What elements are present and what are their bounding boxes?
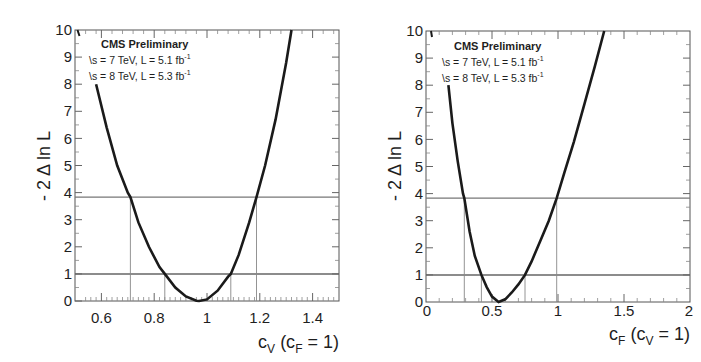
legend: CMS Preliminary \s = 7 TeV, L = 5.1 fb-1… bbox=[442, 40, 544, 84]
svg-text:\s = 8 TeV, L = 5.3 fb-1: \s = 8 TeV, L = 5.3 fb-1 bbox=[89, 69, 191, 82]
svg-text:1: 1 bbox=[203, 309, 211, 326]
svg-text:10: 10 bbox=[406, 22, 423, 39]
y-ticks bbox=[426, 58, 690, 275]
svg-text:10: 10 bbox=[55, 21, 72, 38]
svg-text:7: 7 bbox=[64, 102, 72, 119]
crossing-droplines bbox=[464, 198, 556, 302]
y-tick-labels: 0 1 2 3 4 5 6 7 8 9 10 bbox=[55, 21, 72, 309]
svg-text:7: 7 bbox=[415, 103, 423, 120]
svg-text:6: 6 bbox=[415, 131, 423, 148]
svg-text:1.5: 1.5 bbox=[614, 302, 635, 319]
svg-text:4: 4 bbox=[64, 184, 72, 201]
svg-text:0: 0 bbox=[415, 293, 423, 310]
chart-svg-cf: - 2 Δ ln L bbox=[351, 0, 701, 362]
svg-text:0: 0 bbox=[64, 292, 72, 309]
x-tick-labels: 0 0.5 1 1.5 2 bbox=[423, 302, 693, 319]
chart-svg-cv: - 2 Δ ln L bbox=[0, 0, 350, 362]
svg-text:0.8: 0.8 bbox=[144, 309, 165, 326]
y-axis-title: - 2 Δ ln L bbox=[34, 131, 54, 201]
svg-text:1: 1 bbox=[554, 302, 562, 319]
y-axis-title: - 2 Δ ln L bbox=[385, 131, 405, 201]
legend: CMS Preliminary \s = 7 TeV, L = 5.1 fb-1… bbox=[89, 38, 191, 82]
svg-text:3: 3 bbox=[64, 211, 72, 228]
svg-text:1: 1 bbox=[64, 265, 72, 282]
svg-text:6: 6 bbox=[64, 130, 72, 147]
svg-text:\s = 8 TeV, L = 5.3 fb-1: \s = 8 TeV, L = 5.3 fb-1 bbox=[442, 71, 544, 84]
x-axis-title: cV (cF = 1) bbox=[258, 332, 339, 356]
y-tick-labels: 0 1 2 3 4 5 6 7 8 9 10 bbox=[406, 22, 423, 310]
svg-text:5: 5 bbox=[64, 157, 72, 174]
svg-text:1: 1 bbox=[415, 266, 423, 283]
svg-text:5: 5 bbox=[415, 158, 423, 175]
curve-stub bbox=[78, 30, 80, 36]
svg-text:CMS Preliminary: CMS Preliminary bbox=[454, 40, 542, 52]
svg-text:2: 2 bbox=[415, 239, 423, 256]
svg-text:8: 8 bbox=[415, 76, 423, 93]
svg-text:3: 3 bbox=[415, 212, 423, 229]
svg-text:\s = 7 TeV, L = 5.1 fb-1: \s = 7 TeV, L = 5.1 fb-1 bbox=[89, 53, 191, 66]
svg-text:1.2: 1.2 bbox=[249, 309, 270, 326]
svg-text:0.5: 0.5 bbox=[482, 302, 503, 319]
svg-text:9: 9 bbox=[415, 49, 423, 66]
chart-panel-cf: - 2 Δ ln L bbox=[351, 0, 701, 362]
svg-text:2: 2 bbox=[685, 302, 693, 319]
x-axis-title: cF (cV = 1) bbox=[609, 324, 690, 348]
svg-text:9: 9 bbox=[64, 48, 72, 65]
svg-text:0.6: 0.6 bbox=[91, 309, 112, 326]
svg-text:CMS Preliminary: CMS Preliminary bbox=[101, 38, 189, 50]
y-ticks bbox=[75, 57, 339, 301]
svg-text:4: 4 bbox=[415, 185, 423, 202]
svg-text:2: 2 bbox=[64, 238, 72, 255]
svg-text:1.4: 1.4 bbox=[302, 309, 323, 326]
x-tick-labels: 0.6 0.8 1 1.2 1.4 bbox=[91, 309, 323, 326]
curve-stub bbox=[431, 31, 432, 37]
svg-text:0: 0 bbox=[423, 302, 431, 319]
svg-text:\s = 7 TeV, L = 5.1 fb-1: \s = 7 TeV, L = 5.1 fb-1 bbox=[442, 55, 544, 68]
svg-text:8: 8 bbox=[64, 75, 72, 92]
chart-panel-cv: - 2 Δ ln L bbox=[0, 0, 350, 362]
